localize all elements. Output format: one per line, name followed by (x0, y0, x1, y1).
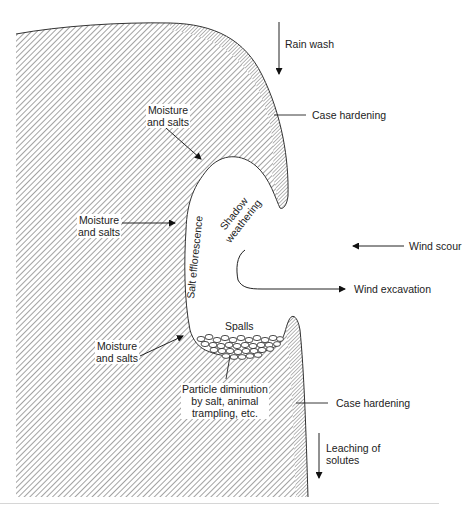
moisture-mid-line2: and salts (78, 226, 120, 238)
moisture-top-line1: Moisture (147, 104, 189, 116)
leaching-line2: solutes (326, 454, 380, 466)
wind-excavation-label: Wind excavation (354, 283, 431, 295)
spalls-label: Spalls (225, 320, 254, 332)
rain-wash-label: Rain wash (285, 38, 334, 50)
moisture-mid-line1: Moisture (78, 214, 120, 226)
bottom-divider (0, 503, 439, 504)
case-hardening-top-label: Case hardening (312, 109, 386, 121)
wind-excavation-arrow (237, 250, 345, 289)
case-hardening-bottom-label: Case hardening (336, 397, 410, 409)
moisture-mid-label: Moisture and salts (77, 214, 121, 238)
moisture-top-label: Moisture and salts (146, 104, 190, 128)
moisture-low-label: Moisture and salts (95, 340, 139, 364)
leaching-line1: Leaching of (326, 442, 380, 454)
moisture-low-line2: and salts (96, 352, 138, 364)
leaching-label: Leaching of solutes (326, 442, 380, 466)
rock-mass (16, 23, 308, 497)
moisture-low-line1: Moisture (96, 340, 138, 352)
particle-diminution-line3: trampling, etc. (182, 407, 268, 419)
wind-scour-label: Wind scour (409, 240, 462, 252)
particle-diminution-line2: by salt, animal (182, 395, 268, 407)
particle-diminution-line1: Particle diminution (182, 383, 268, 395)
particle-diminution-label: Particle diminution by salt, animal tram… (181, 383, 269, 419)
moisture-top-line2: and salts (147, 116, 189, 128)
